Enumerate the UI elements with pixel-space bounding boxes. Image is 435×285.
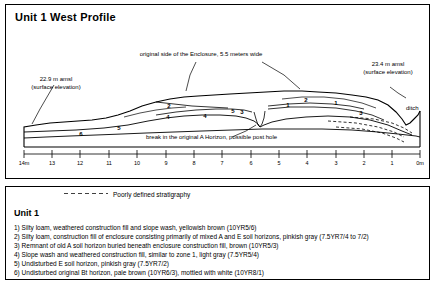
zone-marker: 2 xyxy=(300,97,312,105)
axis-tick-label: 4 xyxy=(299,160,315,166)
axis-tick-label: 5 xyxy=(271,160,287,166)
legend-item-6: 6) Undisturbed original Bt horizon, pale… xyxy=(14,269,264,277)
axis-tick-label: 6 xyxy=(243,160,259,166)
annotation-ditch: ditch xyxy=(406,105,419,113)
leader-right-elev xyxy=(390,87,406,98)
dashed-stratigraphy-key-label: Poorly defined stratigraphy xyxy=(113,191,190,198)
legend-item-5: 5) Undisturbed E soil horizon, pinkish g… xyxy=(14,260,169,268)
legend-panel: Poorly defined stratigraphy Unit 1 1) Si… xyxy=(5,186,430,280)
axis-tick-label: 9 xyxy=(158,160,174,166)
zone-marker: 3 xyxy=(355,110,367,118)
zone-marker: 2 xyxy=(163,103,175,111)
axis-tick-label: 12 xyxy=(72,160,88,166)
axis-tick-label: 8 xyxy=(186,160,202,166)
zone-marker: 5 xyxy=(113,125,125,133)
post-hole-break xyxy=(254,111,265,127)
zone-marker: 1 xyxy=(330,100,342,108)
axis-tick-label: 2 xyxy=(356,160,372,166)
axis-tick-label: 11 xyxy=(101,160,117,166)
legend-item-2: 2) Silty loam, construction fill of encl… xyxy=(14,233,369,241)
dashed-stratigraphy-sample xyxy=(64,193,108,194)
zone-marker: 4 xyxy=(162,114,174,122)
legend-item-3: 3) Remnant of old A soil horizon buried … xyxy=(14,242,278,250)
ditch-dashed-line-2 xyxy=(336,127,404,142)
axis-tick-label: 0m xyxy=(410,160,430,166)
legend-item-1: 1) Silty loam, weathered construction fi… xyxy=(14,224,256,232)
zone-marker: 4 xyxy=(199,113,211,121)
axis-tick-label: 3 xyxy=(328,160,344,166)
annotation-left-elevation: 22.9 m amsl (surface elevation) xyxy=(16,76,96,91)
axis-tick-label: 10 xyxy=(129,160,145,166)
leader-enclosure-right xyxy=(262,62,300,89)
legend-item-4: 4) Slope wash and weathered construction… xyxy=(14,251,259,259)
zone1-line-right xyxy=(282,97,376,108)
diagram-page: Unit 1 West Profile xyxy=(0,0,435,285)
axis-tick-label: 14m xyxy=(14,160,34,166)
zone-marker: 6 xyxy=(75,131,87,139)
annotation-right-elevation: 23.4 m amsl (surface elevation) xyxy=(350,61,426,76)
axis-tick-label: 7 xyxy=(214,160,230,166)
leader-enclosure-left xyxy=(186,62,196,91)
profile-panel: Unit 1 West Profile xyxy=(5,4,430,179)
legend-unit-heading: Unit 1 xyxy=(14,208,39,218)
zone-marker: 1 xyxy=(282,102,294,110)
annotation-enclosure: original side of the Enclosure, 5.5 mete… xyxy=(126,51,276,59)
axis-tick-label: 13 xyxy=(44,160,60,166)
axis-tick-label: 1 xyxy=(384,160,400,166)
annotation-break: break in the original A Horizon, possibl… xyxy=(146,134,236,142)
zone-marker: 5 xyxy=(227,108,239,116)
profile-drawing xyxy=(6,5,431,180)
